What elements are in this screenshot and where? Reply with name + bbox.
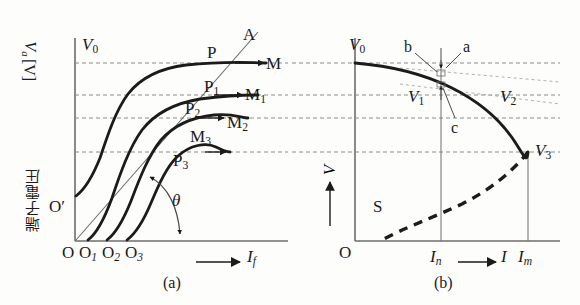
panel-b-point-label-v3: V3: [535, 142, 551, 161]
panel-a-theta-label: θ: [172, 192, 180, 209]
panel-b-axes: [355, 38, 560, 241]
panel-b-x-tick-in: In: [430, 248, 441, 268]
panel-a-caption: (a): [163, 274, 181, 292]
panel-a-x-tick-0: O: [62, 244, 74, 261]
panel-a-line-point-label-0: M: [266, 55, 281, 72]
panel-a-curve-end-label-2: P2: [185, 100, 200, 119]
panel-a-curve-end-label-0: P: [207, 44, 216, 61]
panel-b-x-tick-im: Im: [518, 248, 532, 268]
panel-a-origin-prime-label: O′: [49, 198, 65, 215]
panel-a-v0-label: V0: [82, 36, 98, 55]
panel-b-origin-label: O: [339, 244, 351, 261]
panel-a-x-tick-2: O2: [102, 244, 120, 264]
panel-b-v0-label: V0: [349, 36, 365, 55]
figure-container: 端子電圧 Va [V] V0 O′ O O1 O2 O3 If θ A P P1…: [0, 0, 580, 305]
panel-b-point-label-v1: V1: [408, 88, 424, 107]
panel-a-x-axis-symbol: If: [247, 248, 256, 268]
panel-a-curve-end-label-3: P3: [173, 152, 188, 171]
panel-b-annotation-c: c: [451, 120, 458, 136]
panel-b-y-axis-symbol: V: [320, 156, 340, 184]
panel-a-x-tick-1: O1: [79, 244, 97, 264]
panel-a-x-tick-3: O3: [125, 244, 143, 264]
panel-b-stable-region-label: S: [373, 198, 382, 215]
panel-a-line-point-label-2: M2: [227, 114, 248, 133]
panel-b-x-axis-symbol: I: [501, 248, 507, 265]
panel-a-curve-end-label-1: P1: [204, 78, 219, 97]
panel-a-y-axis-unit: [V]: [18, 62, 40, 78]
panel-a-line-end-label: A: [243, 26, 255, 43]
panel-b-lower-branch: [382, 152, 528, 240]
panel-a-line-point-label-1: M1: [245, 86, 266, 105]
panel-a-y-axis-symbol-unit: Va: [21, 40, 36, 58]
panel-b-annotation-b: b: [404, 39, 412, 55]
panel-a-saturation-curves: [76, 62, 266, 240]
panel-b-annotation-a: a: [463, 39, 470, 55]
panel-b-caption: (b): [434, 274, 453, 292]
panel-a-line-point-label-3: M3: [190, 128, 211, 147]
panel-b-point-label-v2: V2: [500, 88, 516, 107]
